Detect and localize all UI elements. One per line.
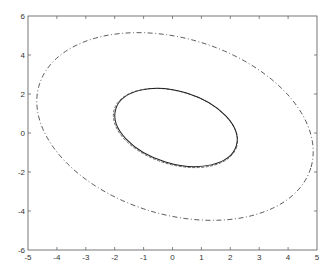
inner-ellipse-solid bbox=[105, 75, 247, 181]
x-tick-label: -3 bbox=[82, 253, 90, 262]
outer-ellipse-dashdot bbox=[13, 1, 336, 252]
y-tick-label: 0 bbox=[21, 129, 26, 138]
x-tick-label: -4 bbox=[53, 253, 61, 262]
x-tick-label: 4 bbox=[286, 253, 291, 262]
y-tick-label: -4 bbox=[18, 207, 26, 216]
y-tick-label: 4 bbox=[21, 51, 26, 60]
x-tick-label: 0 bbox=[170, 253, 175, 262]
x-tick-label: -2 bbox=[111, 253, 119, 262]
y-tick-label: -2 bbox=[18, 168, 26, 177]
y-axis-labels: 6 4 2 0 -2 -4 -6 bbox=[18, 12, 26, 255]
y-axis-ticks bbox=[28, 55, 317, 211]
y-tick-label: -6 bbox=[18, 246, 26, 255]
x-tick-label: -5 bbox=[24, 253, 32, 262]
x-tick-label: 3 bbox=[257, 253, 262, 262]
x-tick-label: 5 bbox=[315, 253, 320, 262]
y-tick-label: 2 bbox=[21, 90, 26, 99]
x-axis-labels: -5 -4 -3 -2 -1 0 1 2 3 4 5 bbox=[24, 253, 319, 262]
chart-canvas: -5 -4 -3 -2 -1 0 1 2 3 4 5 6 4 2 0 -2 -4… bbox=[0, 0, 336, 272]
x-tick-label: -1 bbox=[140, 253, 148, 262]
x-tick-label: 2 bbox=[228, 253, 233, 262]
y-tick-label: 6 bbox=[21, 12, 26, 21]
x-tick-label: 1 bbox=[199, 253, 204, 262]
plot-area-frame bbox=[28, 16, 317, 250]
